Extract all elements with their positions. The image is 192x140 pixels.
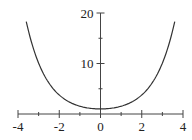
x-tick-label: -2 — [54, 119, 65, 134]
cosh-line-chart: -4-20241020 — [0, 0, 192, 140]
x-tick-label: 0 — [97, 119, 104, 134]
axes — [18, 13, 183, 118]
x-tick-label: 4 — [180, 119, 187, 134]
x-tick-label: 2 — [139, 119, 146, 134]
y-tick-label: 20 — [81, 6, 94, 21]
y-tick-label: 10 — [81, 56, 94, 71]
x-tick-label: -4 — [13, 119, 24, 134]
